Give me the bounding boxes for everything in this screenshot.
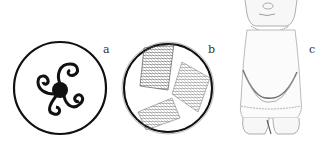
panel-label-a: a bbox=[103, 43, 110, 56]
panel-a: a bbox=[0, 0, 115, 144]
triskele-disc-drawing bbox=[0, 0, 115, 144]
panel-b: b bbox=[110, 0, 220, 144]
panel-c: c bbox=[215, 0, 327, 144]
panel-label-b: b bbox=[208, 43, 215, 56]
figurine-drawing bbox=[215, 0, 327, 144]
panel-label-c: c bbox=[309, 43, 315, 56]
textile-disc-drawing bbox=[110, 0, 220, 144]
